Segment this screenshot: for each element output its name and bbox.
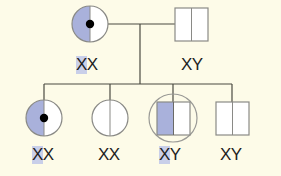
highlighted-allele: X <box>159 146 170 164</box>
genotype-label-mother: XX <box>76 56 98 74</box>
mother-symbol <box>72 6 108 42</box>
genotype-label-son-1: XY <box>159 146 181 164</box>
genotype-label-daughter-1: XX <box>32 146 54 164</box>
genotype-label-son-2: XY <box>220 146 242 164</box>
genotype-label-daughter-2: XX <box>98 146 120 164</box>
carrier-dot-icon <box>40 114 48 122</box>
allele: Y <box>231 146 242 164</box>
son-2-symbol <box>216 102 249 135</box>
carrier-dot-icon <box>86 20 94 28</box>
allele: X <box>109 146 120 164</box>
allele: Y <box>170 146 181 164</box>
allele: X <box>43 146 54 164</box>
highlighted-allele: X <box>76 56 87 74</box>
daughter-2-symbol <box>92 100 128 136</box>
genotype-label-father: XY <box>181 56 203 74</box>
allele: X <box>87 56 98 74</box>
allele: X <box>220 146 231 164</box>
allele: X <box>181 56 192 74</box>
daughter-1-symbol <box>26 100 62 136</box>
allele: Y <box>192 56 203 74</box>
allele: X <box>98 146 109 164</box>
highlighted-allele: X <box>32 146 43 164</box>
father-symbol <box>175 8 208 41</box>
